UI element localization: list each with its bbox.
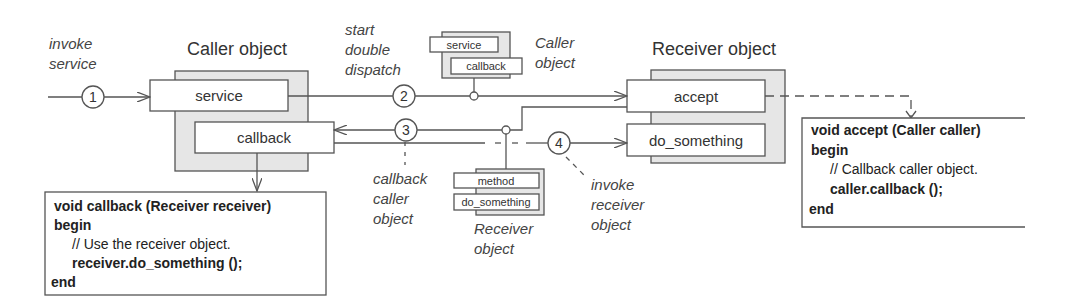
step-3-label-line1: callback xyxy=(373,170,429,187)
callback-code-signature: void callback (Receiver receiver) xyxy=(54,198,271,214)
receiver-method-do-something-label: do_something xyxy=(649,132,743,149)
step-2-label-line3: dispatch xyxy=(345,61,401,78)
mini-caller-method-callback-label: callback xyxy=(466,60,506,72)
step-3-label-line2: caller xyxy=(373,190,410,207)
caller-object: Caller object service callback xyxy=(150,39,334,171)
step-4-label-line1: invoke xyxy=(591,176,634,193)
step-2-number: 2 xyxy=(400,88,408,104)
receiver-object-title: Receiver object xyxy=(652,39,776,59)
step-4-label-line2: receiver xyxy=(591,196,645,213)
accept-code-end: end xyxy=(809,201,834,217)
caller-method-service-label: service xyxy=(195,87,243,104)
step-4-number: 4 xyxy=(555,135,563,151)
step-1-number: 1 xyxy=(89,89,97,105)
step-3-number: 3 xyxy=(402,122,410,138)
callback-code-statement: receiver.do_something (); xyxy=(72,255,242,271)
mini-caller-attach-point xyxy=(470,92,478,100)
caller-object-title: Caller object xyxy=(187,39,287,59)
callback-code-box: void callback (Receiver receiver) begin … xyxy=(45,192,326,295)
mini-caller-label-line1: Caller xyxy=(535,34,575,51)
accept-code-begin: begin xyxy=(811,142,848,158)
mini-receiver-label-line2: object xyxy=(474,240,515,257)
receiver-method-accept-label: accept xyxy=(674,88,719,105)
accept-code-comment: // Callback caller object. xyxy=(830,161,978,177)
mini-caller-object: service callback Caller object xyxy=(430,32,576,78)
receiver-object: Receiver object accept do_something xyxy=(627,39,785,163)
mini-receiver-label-line1: Receiver xyxy=(474,220,534,237)
step-1-label-line1: invoke xyxy=(49,35,92,52)
step-2-label-line2: double xyxy=(345,41,390,58)
mini-receiver-method-do-something-label: do_something xyxy=(461,196,530,208)
mini-receiver-object: method do_something Receiver object xyxy=(454,169,544,257)
step-3-label-line3: object xyxy=(373,210,414,227)
step-2-label-line1: start xyxy=(345,21,375,38)
mini-caller-label-line2: object xyxy=(535,54,576,71)
callback-code-end: end xyxy=(51,274,76,290)
accept-implementation-arrow xyxy=(765,96,911,117)
caller-method-callback-label: callback xyxy=(237,129,292,146)
mini-caller-method-service-label: service xyxy=(447,39,482,51)
accept-code-signature: void accept (Caller caller) xyxy=(811,122,981,138)
accept-code-box: void accept (Caller caller) begin // Cal… xyxy=(802,118,1025,227)
step-1-label-line2: service xyxy=(49,55,97,72)
step-1: invoke service 1 xyxy=(48,35,150,108)
double-dispatch-diagram: Caller object service callback Receiver … xyxy=(0,0,1067,306)
mini-receiver-method-method-label: method xyxy=(478,175,515,187)
mini-receiver-attach-point xyxy=(502,126,510,134)
callback-code-comment: // Use the receiver object. xyxy=(72,236,231,252)
callback-code-begin: begin xyxy=(54,217,91,233)
accept-code-statement: caller.callback (); xyxy=(830,181,943,197)
step-4-label-line3: object xyxy=(591,216,632,233)
